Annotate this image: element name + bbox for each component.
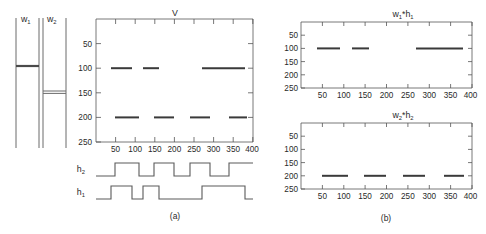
w1h1-ytick-2: 150 (284, 58, 298, 67)
w1h1-xtick-5: 300 (422, 91, 436, 100)
caption-a: (a) (170, 211, 181, 221)
v-ytick-2: 150 (78, 89, 92, 98)
w1h1-xtick-4: 250 (401, 91, 415, 100)
w1h1-title: w1*h1 (391, 9, 413, 20)
panel-w1: w1 (16, 14, 39, 148)
w2h2-top-ticks (322, 123, 472, 127)
w2h2-y-ticks (301, 136, 472, 189)
panel-w2h2: w2*h2 (284, 110, 477, 201)
h1-label: h1 (77, 187, 85, 198)
w1h1-ytick-0: 50 (289, 31, 299, 40)
w2h2-bottom-ticks (322, 185, 472, 189)
v-xtick-1: 100 (128, 145, 142, 154)
panel-w2: w2 (43, 14, 66, 148)
w2h2-ytick-4: 250 (284, 185, 298, 194)
w1h1-y-tick-labels: 50 100 150 200 250 (284, 31, 298, 93)
v-xtick-2: 150 (148, 145, 162, 154)
figure-canvas: w1 w2 V (0, 0, 486, 234)
figure-root: w1 w2 V (0, 0, 486, 234)
w1h1-ytick-1: 100 (284, 44, 298, 53)
caption-b: (b) (381, 213, 392, 223)
w1h1-xtick-7: 400 (464, 91, 478, 100)
w1h1-xtick-2: 150 (358, 91, 372, 100)
w2h2-ytick-3: 200 (284, 172, 298, 181)
w2h2-xtick-4: 250 (401, 192, 415, 201)
w1-title: w1 (20, 14, 31, 25)
v-title: V (172, 8, 178, 18)
w2h2-x-tick-labels: 50 100 150 200 250 300 350 400 (318, 192, 478, 201)
v-x-tick-labels: 50 100 150 200 250 300 350 400 (111, 145, 259, 154)
v-xtick-3: 200 (168, 145, 182, 154)
w2h2-ytick-2: 150 (284, 159, 298, 168)
w1h1-ytick-4: 250 (284, 84, 298, 93)
panel-h-waves: h2 h1 (77, 163, 253, 199)
v-xtick-5: 300 (207, 145, 221, 154)
w1h1-xtick-0: 50 (318, 91, 328, 100)
w1h1-x-tick-labels: 50 100 150 200 250 300 350 400 (318, 91, 478, 100)
h2-label: h2 (77, 164, 85, 175)
v-y-tick-labels: 50 100 150 200 250 (78, 40, 92, 147)
w2h2-xtick-0: 50 (318, 192, 328, 201)
w1h1-xtick-6: 350 (444, 91, 458, 100)
w2h2-ytick-1: 100 (284, 145, 298, 154)
h1-waveform (96, 186, 253, 199)
v-ytick-0: 50 (83, 40, 93, 49)
w2h2-ytick-0: 50 (289, 132, 299, 141)
w1h1-bottom-ticks (322, 84, 472, 88)
w2h2-xtick-3: 200 (380, 192, 394, 201)
w1h1-top-ticks (322, 22, 472, 26)
panel-w1h1: w1*h1 (284, 9, 477, 100)
w2h2-title: w2*h2 (391, 110, 413, 121)
panel-v: V (78, 8, 259, 154)
v-xtick-6: 350 (226, 145, 240, 154)
w1h1-xtick-1: 100 (337, 91, 351, 100)
w1h1-xtick-3: 200 (380, 91, 394, 100)
w1h1-y-ticks (301, 35, 472, 88)
v-ytick-3: 200 (78, 113, 92, 122)
v-xtick-0: 50 (111, 145, 121, 154)
v-ytick-4: 250 (78, 138, 92, 147)
w2h2-xtick-1: 100 (337, 192, 351, 201)
w2h2-xtick-5: 300 (422, 192, 436, 201)
w2-title: w2 (46, 14, 57, 25)
v-y-ticks (96, 44, 253, 142)
v-bottom-ticks (116, 137, 253, 142)
w2h2-xtick-2: 150 (358, 192, 372, 201)
v-xtick-4: 250 (187, 145, 201, 154)
v-xtick-7: 400 (245, 145, 259, 154)
w2h2-xtick-7: 400 (464, 192, 478, 201)
w2h2-xtick-6: 350 (444, 192, 458, 201)
h2-waveform (96, 163, 253, 176)
v-top-ticks (116, 19, 253, 24)
v-ytick-1: 100 (78, 64, 92, 73)
w2h2-y-tick-labels: 50 100 150 200 250 (284, 132, 298, 194)
w1h1-ytick-3: 200 (284, 71, 298, 80)
